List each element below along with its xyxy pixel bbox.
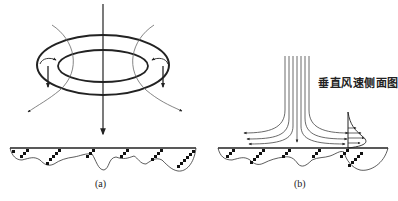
panel-a — [10, 4, 196, 171]
microburst-diagram — [0, 0, 398, 201]
rotation-arrow-right — [152, 58, 168, 64]
circulation-curve-left — [28, 25, 73, 112]
terrain-profile-a — [10, 148, 196, 171]
circulation-curve-right — [133, 25, 182, 111]
vertical-wind-profile-label: 垂直风速侧面图 — [318, 74, 398, 90]
terrain-profile-b — [218, 148, 388, 170]
caption-b: (b) — [294, 178, 306, 189]
rotation-arrow-left — [40, 58, 56, 64]
caption-a: (a) — [95, 178, 106, 189]
vertical-wind-profile — [348, 112, 366, 148]
downdraft-streamlines — [244, 56, 348, 144]
